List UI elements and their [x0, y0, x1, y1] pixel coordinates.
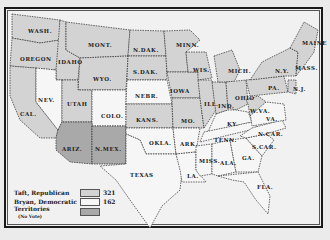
legend-label-republican: Taft, Republican	[14, 189, 80, 196]
state-label: ARIZ.	[62, 146, 82, 152]
state-nebr	[126, 80, 172, 104]
state-label: OREGON	[20, 56, 52, 62]
state-label: OHIO	[235, 95, 255, 101]
state-label: CAL.	[20, 111, 37, 117]
state-label: WYO.	[93, 76, 112, 82]
state-label: KY.	[227, 121, 239, 127]
state-label: ILL.	[204, 101, 219, 107]
legend-label-territory: Territories (No Vote)	[14, 205, 80, 219]
territory-label: Territories	[14, 205, 50, 212]
state-label: N.CAR.	[258, 131, 283, 137]
state-label: IND.	[218, 103, 235, 109]
state-fla	[218, 172, 270, 214]
state-nmex	[92, 126, 126, 164]
state-label: N.Y.	[275, 68, 289, 74]
state-sdak	[127, 56, 167, 80]
state-label: VA.	[266, 116, 278, 122]
state-ny	[250, 48, 298, 80]
state-label: W.VA.	[250, 108, 270, 114]
state-label: N.J.	[293, 86, 306, 92]
territory-note: (No Vote)	[18, 214, 42, 219]
state-label: KANS.	[136, 117, 159, 123]
state-label: OKLA.	[149, 140, 172, 146]
state-label: UTAH	[67, 101, 87, 107]
state-label: IOWA	[170, 88, 190, 94]
state-label: ALA.	[220, 160, 237, 166]
state-label: N.DAK.	[133, 47, 159, 53]
legend-row-republican: Taft, Republican 321	[14, 188, 116, 197]
state-label: MISS.	[199, 158, 220, 164]
state-label: COLO.	[101, 113, 123, 119]
state-label: NEV.	[38, 97, 55, 103]
legend-label-democratic: Bryan, Democratic	[14, 198, 80, 205]
state-label: PA.	[268, 85, 280, 91]
state-label: MAINE	[302, 40, 327, 46]
state-kans	[126, 104, 173, 128]
state-label: N.MEX.	[95, 146, 122, 152]
state-ariz	[56, 122, 92, 164]
state-label: S.CAR.	[252, 144, 276, 150]
state-label: MASS.	[295, 65, 318, 71]
state-iowa	[167, 72, 200, 98]
state-mont	[66, 22, 130, 58]
swatch-republican	[80, 189, 100, 197]
swatch-democratic	[80, 198, 100, 206]
legend: Taft, Republican 321 Bryan, Democratic 1…	[14, 188, 116, 218]
swatch-territory	[80, 208, 100, 216]
state-wyo	[78, 56, 128, 90]
state-label: S.DAK.	[133, 69, 158, 75]
state-label: WIS.	[193, 67, 210, 73]
state-oregon	[10, 38, 60, 70]
state-label: ARK.	[180, 141, 198, 147]
state-label: GA.	[242, 155, 255, 161]
state-label: TEXAS	[130, 172, 154, 178]
state-label: TENN.	[214, 137, 237, 143]
state-label: NEBR.	[135, 93, 158, 99]
legend-count-republican: 321	[103, 189, 116, 196]
legend-row-territory: Territories (No Vote)	[14, 206, 116, 218]
state-label: MINN.	[176, 42, 199, 48]
legend-count-democratic: 162	[103, 198, 116, 205]
state-label: MONT.	[88, 42, 112, 48]
state-label: MICH.	[228, 68, 251, 74]
state-label: WASH.	[28, 28, 52, 34]
state-label: FLA.	[257, 184, 273, 190]
state-label: MO.	[181, 118, 195, 124]
state-label: IDAHO	[58, 59, 83, 65]
state-colo	[92, 90, 126, 126]
state-mich	[214, 50, 240, 82]
state-label: LA.	[187, 173, 199, 179]
